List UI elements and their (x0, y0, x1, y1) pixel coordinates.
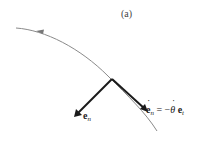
label-e-n: en (83, 111, 91, 123)
e-dot-symbol: e (146, 105, 150, 115)
normal-vector-e-n (77, 79, 112, 114)
normal-derivative-vector (112, 79, 145, 109)
figure-caption: (a) (121, 9, 132, 19)
label-derivative-equation: en = −θ et (146, 105, 184, 117)
diagram-canvas (0, 0, 206, 148)
theta-dot-symbol: θ (170, 105, 175, 115)
